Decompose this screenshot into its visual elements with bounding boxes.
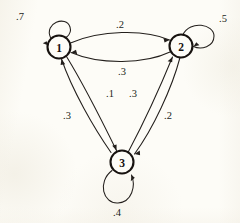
edge-label-1-to-2: .2 [116,19,124,30]
edge-path-1-3 [67,57,117,151]
edge-label-2-to-1: .3 [118,66,126,77]
edge-path-3-2 [129,57,173,152]
edge-3-to-1 [61,59,111,153]
node-3[interactable]: 3 [111,151,134,174]
edge-label-self-loop-2: .5 [219,13,227,24]
edge-label-3-to-2: .3 [129,88,137,99]
diagram-page: 1 2 3 .7 .5 .4 .2 .3 .1 .3 .3 .2 [0,0,240,223]
edge-2-to-1 [71,50,170,62]
edge-label-1-to-3: .1 [106,88,114,99]
self-loop-path-3 [103,171,133,204]
edge-path-2-1 [71,52,170,61]
edge-label-self-loop-1: .7 [16,11,24,22]
edge-label-3-to-1: .3 [63,110,71,121]
edge-2-to-3 [135,58,181,156]
edge-1-to-3 [67,57,117,151]
edge-label-2-to-3: .2 [164,110,172,121]
edge-1-to-2 [71,32,170,43]
arrow-head-3-2 [168,57,173,62]
node-1[interactable]: 1 [48,36,71,59]
node-label-2: 2 [178,41,184,53]
edge-label-self-loop-3: .4 [113,207,122,218]
edge-path-3-1 [62,59,112,153]
node-label-3: 3 [119,157,125,169]
arrow-head-2-2 [194,42,200,46]
arrow-head-1-3 [112,145,116,151]
node-2[interactable]: 2 [170,35,193,58]
state-transition-diagram: 1 2 3 .7 .5 .4 .2 .3 .1 .3 .3 .2 [0,0,240,223]
node-label-1: 1 [56,42,62,54]
edge-3-to-2 [129,57,173,152]
self-loop-edge-3-3 [103,171,134,204]
edge-path-1-2 [71,32,170,43]
edge-path-2-3 [135,58,181,155]
